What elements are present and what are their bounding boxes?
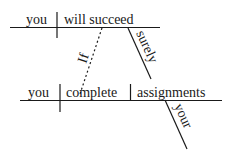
- conjunction: If: [75, 51, 92, 65]
- sub-object-modifier: your: [171, 101, 195, 131]
- sub-object: assignments: [137, 85, 205, 100]
- subordinate-clause: you complete assignments your: [20, 84, 222, 149]
- main-subject: you: [26, 12, 47, 27]
- sub-subject: you: [28, 85, 49, 100]
- sentence-diagram: you will succeed surely If you complete …: [0, 0, 233, 153]
- sub-verb: complete: [66, 85, 117, 100]
- main-verb: will succeed: [64, 12, 134, 27]
- main-modifier: surely: [133, 28, 161, 65]
- main-clause: you will succeed surely: [10, 12, 161, 79]
